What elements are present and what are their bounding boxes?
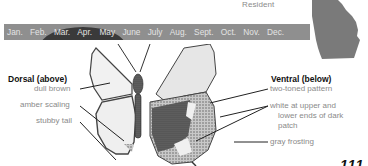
page-number: 111 — [340, 158, 364, 166]
range-status-label: Resident — [242, 0, 274, 9]
ventral-label-gray-frosting: gray frosting — [270, 137, 314, 147]
ventral-label-white-line1: white at upper and — [270, 101, 336, 111]
month-jan: Jan. — [7, 27, 23, 37]
month-dec: Dec. — [267, 27, 284, 37]
month-july: July — [148, 27, 163, 37]
month-nov: Nov. — [243, 27, 259, 37]
ventral-label-white-line2: lower ends of dark — [278, 111, 343, 121]
month-may: May — [99, 27, 115, 37]
dorsal-label-stubby-tail: stubby tail — [36, 116, 72, 126]
month-aug: Aug. — [170, 27, 187, 37]
ventral-label-two-toned: two-toned pattern — [270, 84, 332, 94]
month-sept: Sept. — [194, 27, 213, 37]
month-feb: Feb. — [30, 27, 47, 37]
georgia-state-map-icon — [308, 0, 368, 60]
ventral-label-white-line3: patch — [278, 121, 298, 131]
month-oct: Oct. — [221, 27, 236, 37]
ventral-heading: Ventral (below) — [271, 74, 331, 84]
month-june: June — [122, 27, 140, 37]
dorsal-heading: Dorsal (above) — [8, 74, 67, 84]
month-apr: Apr. — [77, 27, 92, 37]
dorsal-label-dull-brown: dull brown — [34, 84, 70, 94]
month-mar: Mar. — [54, 27, 70, 37]
butterfly-illustration — [88, 44, 272, 166]
flight-period-bar: Jan. Feb. Mar. Apr. May June July Aug. S… — [4, 24, 310, 40]
dorsal-label-amber-scaling: amber scaling — [20, 100, 70, 110]
